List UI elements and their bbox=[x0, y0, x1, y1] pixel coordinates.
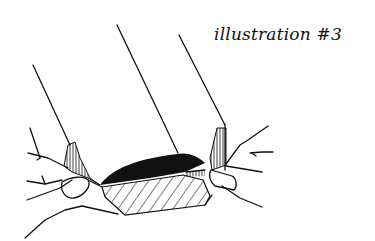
hands-pinching-illustration bbox=[0, 0, 375, 241]
sleeve-outline bbox=[33, 25, 225, 170]
right-gathers bbox=[210, 128, 226, 170]
